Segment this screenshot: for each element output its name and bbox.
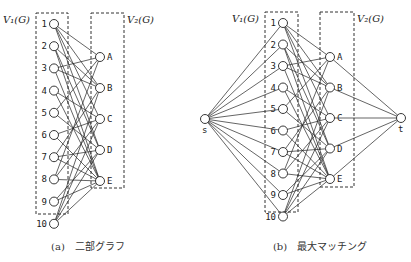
sink-label: t	[398, 124, 403, 134]
right-node-label: B	[337, 83, 342, 93]
left-node-label: 1	[42, 19, 47, 29]
left-node-label: 1	[271, 18, 276, 28]
edges	[54, 24, 100, 224]
right-node-A	[96, 53, 105, 62]
edge	[54, 179, 100, 181]
left-node-label: 7	[42, 152, 47, 162]
left-node-6	[279, 126, 288, 135]
right-node-A	[326, 53, 335, 62]
left-node-6	[50, 131, 59, 140]
left-node-label: 2	[42, 41, 47, 51]
v2-set-label: V₂(G)	[357, 13, 384, 24]
edge	[283, 88, 330, 119]
left-node-label: 5	[42, 108, 47, 118]
right-node-label: B	[107, 83, 112, 93]
left-node-3	[50, 64, 59, 73]
v2-set-box	[320, 12, 354, 187]
v1-set-label: V₁(G)	[3, 14, 30, 25]
right-node-label: D	[337, 144, 342, 154]
left-node-label: 10	[265, 212, 276, 222]
left-node-label: 2	[271, 40, 276, 50]
edge	[54, 119, 100, 224]
right-node-C	[326, 114, 335, 123]
left-node-2	[279, 40, 288, 49]
left-node-9	[279, 191, 288, 200]
left-node-10	[50, 219, 59, 228]
left-node-label: 3	[42, 63, 47, 73]
sink-node	[397, 114, 406, 123]
left-node-2	[50, 42, 59, 51]
source-label: s	[202, 125, 207, 135]
left-node-4	[279, 83, 288, 92]
left-node-1	[50, 20, 59, 29]
figure-caption: (b) 最大マッチング	[273, 240, 367, 252]
right-node-label: A	[107, 52, 113, 62]
right-node-label: A	[337, 52, 343, 62]
right-node-D	[96, 146, 105, 155]
edge	[283, 23, 330, 88]
right-node-C	[96, 115, 105, 124]
edge	[283, 174, 330, 180]
left-node-label: 5	[271, 104, 276, 114]
edge	[283, 23, 330, 57]
source-node	[201, 115, 210, 124]
left-node-label: 10	[36, 219, 47, 229]
left-node-8	[50, 175, 59, 184]
right-node-label: E	[107, 176, 112, 186]
left-node-10	[279, 212, 288, 221]
v1-set-label: V₁(G)	[232, 13, 259, 24]
edge	[283, 88, 330, 217]
edges	[205, 23, 401, 217]
bipartite-graph-figure: V₁(G)V₂(G)12345678910ABCDE(a) 二部グラフ V₁(G…	[0, 0, 411, 262]
left-node-label: 3	[271, 61, 276, 71]
right-node-B	[96, 84, 105, 93]
bipartite-graph-a: V₁(G)V₂(G)12345678910ABCDE(a) 二部グラフ	[3, 13, 154, 252]
left-node-5	[279, 105, 288, 114]
left-node-8	[279, 169, 288, 178]
right-node-label: C	[107, 114, 112, 124]
left-node-label: 8	[42, 174, 47, 184]
right-node-E	[96, 177, 105, 186]
edge	[283, 23, 330, 118]
left-node-9	[50, 197, 59, 206]
left-node-7	[279, 148, 288, 157]
left-node-label: 4	[42, 86, 47, 96]
left-node-label: 8	[271, 169, 276, 179]
left-node-label: 4	[271, 83, 276, 93]
left-node-label: 6	[42, 130, 47, 140]
max-matching-graph-b: V₁(G)V₂(G)st12345678910ABCDE(b) 最大マッチング	[201, 12, 406, 252]
edge	[54, 119, 100, 135]
figure-caption: (a) 二部グラフ	[51, 240, 125, 252]
left-node-5	[50, 108, 59, 117]
left-node-1	[279, 19, 288, 28]
edge	[54, 181, 100, 202]
left-node-7	[50, 153, 59, 162]
edge	[283, 45, 330, 88]
left-node-label: 9	[271, 190, 276, 200]
v2-set-label: V₂(G)	[127, 14, 154, 25]
left-node-3	[279, 62, 288, 71]
right-node-label: D	[107, 145, 112, 155]
left-node-label: 9	[42, 197, 47, 207]
left-node-label: 7	[271, 147, 276, 157]
left-node-4	[50, 86, 59, 95]
right-node-B	[326, 83, 335, 92]
edge	[283, 23, 330, 149]
edge	[54, 119, 100, 179]
left-node-label: 6	[271, 126, 276, 136]
right-node-label: E	[337, 174, 342, 184]
edge	[283, 149, 330, 217]
edge	[283, 66, 330, 88]
right-node-D	[326, 144, 335, 153]
right-node-E	[326, 175, 335, 184]
right-node-label: C	[337, 113, 342, 123]
